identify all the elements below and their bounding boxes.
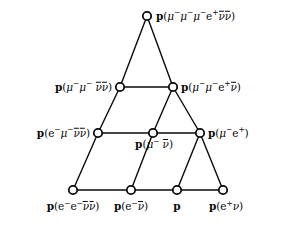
edge-layer	[73, 16, 223, 190]
graph-node-n2[interactable]	[169, 83, 177, 91]
edge-n0-n2	[147, 16, 173, 87]
edge-n3-n6	[73, 133, 98, 190]
graph-node-n9[interactable]	[219, 186, 227, 194]
edge-n2-n5	[173, 87, 200, 133]
edge-n1-n3	[98, 87, 120, 133]
graph-node-n1[interactable]	[116, 83, 124, 91]
node-label-n0: p(μ−μ−μ−e+νν)	[156, 11, 235, 22]
graph-node-n5[interactable]	[196, 129, 204, 137]
node-label-n6: p(e−e−νν)	[47, 201, 100, 212]
edge-n2-n4	[153, 87, 173, 133]
node-label-n4: p(μ− ν)	[135, 139, 173, 150]
node-label-n5: p(μ−e+)	[208, 128, 249, 139]
edge-n5-n8	[177, 133, 200, 190]
node-label-n1: p(μ−μ− νν)	[55, 82, 112, 93]
node-label-n3: p(e−μ−νν)	[37, 128, 90, 139]
edge-n5-n9	[200, 133, 223, 190]
graph-node-n8[interactable]	[173, 186, 181, 194]
node-layer	[69, 12, 227, 194]
graph-node-n3[interactable]	[94, 129, 102, 137]
node-label-n2: p(μ−μ−e+ν)	[181, 82, 241, 93]
lattice-graph-svg	[0, 0, 281, 226]
graph-node-n0[interactable]	[143, 12, 151, 20]
node-label-n7: p(e−ν)	[114, 201, 148, 212]
graph-node-n7[interactable]	[127, 186, 135, 194]
graph-node-n6[interactable]	[69, 186, 77, 194]
node-label-n9: p(e+ν)	[209, 201, 243, 212]
node-label-n8: p	[173, 201, 180, 212]
diagram-canvas: p(μ−μ−μ−e+νν) p(μ−μ− νν) p(μ−μ−e+ν) p(e−…	[0, 0, 281, 226]
edge-n0-n1	[120, 16, 147, 87]
